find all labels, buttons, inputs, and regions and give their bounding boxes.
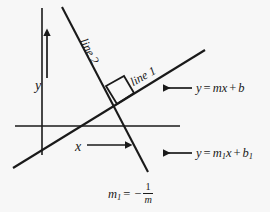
eq2-equals: =	[202, 146, 213, 160]
eq1-b: b	[238, 81, 244, 95]
eq2-b-subscript: 1	[249, 151, 253, 161]
x-axis-label: x	[75, 140, 81, 154]
eq3-fraction: 1m	[143, 182, 152, 206]
eq3-m: m	[108, 187, 117, 201]
slope-relation-equation: m1=−1m	[108, 182, 153, 206]
eq3-numerator: 1	[143, 182, 152, 193]
y-axis-label: y	[35, 79, 41, 93]
eq2-plus: +	[231, 146, 242, 160]
eq3-equals: =	[121, 187, 132, 201]
eq3-denominator: m	[143, 195, 152, 206]
line-1-equation: y=mx+b	[196, 82, 245, 95]
eq1-y: y	[196, 81, 202, 95]
eq2-m: m	[213, 146, 222, 160]
line-2-equation: y=m1x+b1	[196, 147, 253, 161]
eq1-plus: +	[227, 81, 238, 95]
diagram-canvas	[0, 0, 270, 212]
perpendicular-lines-diagram: line 2 line 1 y x y=mx+b y=m1x+b1 m1=−1m	[0, 0, 270, 212]
eq1-equals: =	[202, 81, 213, 95]
eq2-y: y	[196, 146, 202, 160]
eq1-mx: mx	[213, 81, 228, 95]
eq3-minus: −	[132, 187, 143, 201]
